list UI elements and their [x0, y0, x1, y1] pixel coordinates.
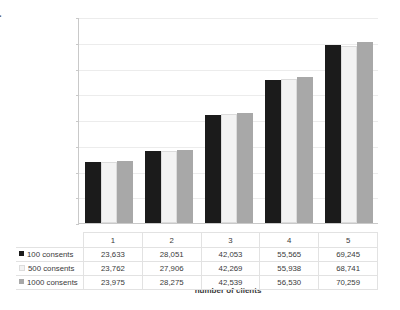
y-axis-title: response time in milliseconds [0, 0, 1, 52]
table-column-header: 4 [260, 233, 319, 248]
bar[interactable] [101, 162, 117, 223]
bar-group [139, 18, 199, 223]
legend-entry: 100 consents [16, 248, 84, 262]
table-corner-cell [16, 233, 84, 248]
table-cell: 28,051 [142, 248, 201, 262]
bar[interactable] [325, 45, 341, 223]
bar[interactable] [145, 151, 161, 223]
table-column-header: 3 [201, 233, 260, 248]
table-cell: 70,259 [319, 276, 378, 290]
legend-label: 1000 consents [27, 278, 78, 287]
table-cell: 27,906 [142, 262, 201, 276]
bar[interactable] [85, 162, 101, 223]
bar[interactable] [265, 80, 281, 223]
bar[interactable] [117, 161, 133, 223]
bar-chart: response time in milliseconds 0102030405… [0, 0, 400, 310]
bar[interactable] [205, 115, 221, 223]
table-cell: 23,975 [84, 276, 143, 290]
table-category-row: 12345 [16, 233, 378, 248]
table-column-header: 2 [142, 233, 201, 248]
y-tick-mark [76, 224, 79, 225]
data-table: 12345100 consents23,63328,05142,05355,56… [16, 232, 378, 290]
legend-swatch-icon [19, 265, 25, 271]
table-column-header: 1 [84, 233, 143, 248]
table-row: 1000 consents23,97528,27542,53956,53070,… [16, 276, 378, 290]
legend-label: 100 consents [27, 250, 73, 259]
table-cell: 68,741 [319, 262, 378, 276]
table-cell: 55,938 [260, 262, 319, 276]
bar[interactable] [237, 113, 253, 223]
legend-entry: 1000 consents [16, 276, 84, 290]
table-column-header: 5 [319, 233, 378, 248]
table-row: 500 consents23,76227,90642,26955,93868,7… [16, 262, 378, 276]
bar[interactable] [161, 151, 177, 223]
table-cell: 69,245 [319, 248, 378, 262]
table-cell: 56,530 [260, 276, 319, 290]
bar-group [319, 18, 379, 223]
table-row: 100 consents23,63328,05142,05355,56569,2… [16, 248, 378, 262]
table-cell: 42,053 [201, 248, 260, 262]
table-cell: 28,275 [142, 276, 201, 290]
bar[interactable] [177, 150, 193, 223]
table-cell: 42,539 [201, 276, 260, 290]
bar[interactable] [341, 46, 357, 223]
bar-group [259, 18, 319, 223]
bar-group [79, 18, 139, 223]
bar[interactable] [297, 77, 313, 223]
table-cell: 55,565 [260, 248, 319, 262]
plot-area: 01020304050607080 [78, 18, 378, 224]
table-cell: 23,762 [84, 262, 143, 276]
legend-label: 500 consents [28, 264, 74, 273]
legend-swatch-icon [19, 251, 24, 256]
bar[interactable] [357, 42, 373, 223]
table-cell: 23,633 [84, 248, 143, 262]
table-cell: 42,269 [201, 262, 260, 276]
bar-group [199, 18, 259, 223]
legend-entry: 500 consents [16, 262, 84, 276]
bar[interactable] [221, 114, 237, 223]
bar[interactable] [281, 79, 297, 223]
legend-swatch-icon [19, 279, 24, 284]
